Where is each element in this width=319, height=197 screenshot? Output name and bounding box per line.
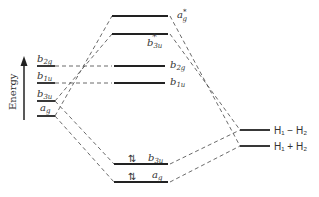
correlation-line: [170, 130, 240, 164]
electron-pair-icon: ⇅: [128, 171, 136, 182]
correlation-line: [55, 34, 112, 101]
label-ag-bonding: ag: [152, 169, 163, 182]
correlation-line: [170, 146, 240, 182]
molecular-orbitals: a*g b3u * b2g b1u ⇅ b3u ⇅ ag: [112, 8, 187, 182]
label-b3u-bonding: b3u: [148, 152, 164, 165]
correlation-line: [55, 101, 114, 164]
label-ag-left: ag: [40, 102, 51, 115]
label-b2g-mo: b2g: [170, 59, 186, 72]
energy-arrowhead-icon: [21, 56, 28, 66]
right-fragment-levels: H₁ − H₂ H₁ + H₂: [240, 125, 307, 152]
label-b3u-star-asterisk: *: [152, 31, 157, 42]
left-fragment-levels: b2g b1u b3u ag: [37, 53, 55, 116]
label-b1u-mo: b1u: [170, 76, 186, 89]
label-b2g-left: b2g: [37, 53, 53, 66]
label-h1-plus-h2: H₁ + H₂: [274, 141, 307, 152]
electron-pair-icon: ⇅: [128, 153, 136, 164]
energy-axis-label: Energy: [7, 73, 18, 110]
label-ag-star: a*g: [177, 8, 187, 23]
label-h1-minus-h2: H₁ − H₂: [274, 125, 307, 136]
mo-diagram: Energy b2g b1u b3u ag a*g b3u * b2g b1u: [0, 0, 319, 197]
correlation-line: [55, 116, 114, 182]
label-b1u-left: b1u: [37, 70, 53, 83]
label-b3u-left: b3u: [37, 88, 53, 101]
